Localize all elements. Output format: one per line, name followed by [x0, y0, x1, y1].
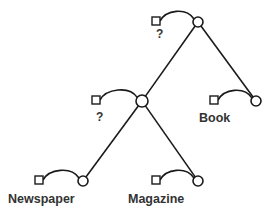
square-terminal-icon	[210, 96, 218, 104]
square-terminal-icon	[92, 96, 100, 104]
edge-mid-newspaper	[86, 106, 138, 177]
link-arc	[100, 90, 137, 100]
node-mid: ?	[92, 90, 148, 124]
edge-mid-magazine	[145, 106, 195, 177]
node-label: Book	[199, 111, 230, 125]
node-newspaper: Newspaper	[8, 170, 88, 206]
link-arc	[43, 170, 79, 180]
circle-node-icon	[193, 176, 203, 186]
tree-edges	[86, 26, 253, 177]
node-label: Magazine	[128, 192, 184, 206]
node-root: ?	[152, 11, 203, 41]
link-arc	[160, 11, 194, 21]
node-label: Newspaper	[8, 192, 75, 206]
node-label: ?	[156, 27, 163, 41]
circle-node-icon	[136, 95, 148, 107]
link-arc	[160, 170, 194, 180]
tree-nodes: ??BookNewspaperMagazine	[8, 11, 261, 206]
square-terminal-icon	[152, 17, 160, 25]
edge-root-book	[201, 26, 253, 97]
link-arc	[218, 90, 252, 100]
node-magazine: Magazine	[128, 170, 203, 206]
circle-node-icon	[78, 176, 88, 186]
tree-diagram: ??BookNewspaperMagazine	[0, 0, 274, 214]
square-terminal-icon	[35, 176, 43, 184]
edge-root-mid	[145, 26, 195, 96]
circle-node-icon	[193, 17, 203, 27]
square-terminal-icon	[152, 176, 160, 184]
node-label: ?	[96, 110, 103, 124]
circle-node-icon	[251, 96, 261, 106]
